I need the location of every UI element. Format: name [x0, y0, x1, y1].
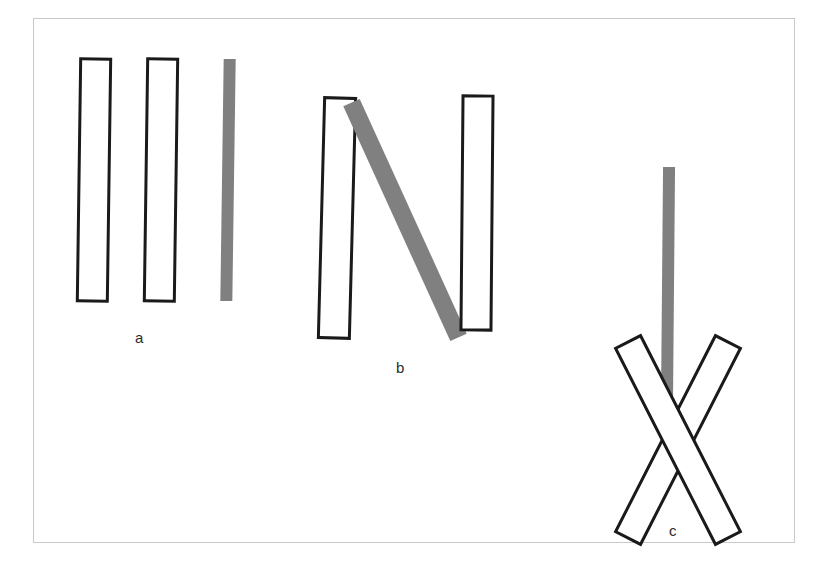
panel-a-group [77, 59, 235, 301]
bar-b-2 [343, 99, 466, 341]
bar-a-1 [77, 59, 110, 301]
figure-canvas [0, 0, 830, 583]
figure-root: a b c [0, 0, 830, 583]
panel-label-b: b [396, 360, 404, 375]
bar-a-3 [220, 59, 235, 301]
bar-b-1 [318, 98, 355, 339]
bar-c-1 [661, 167, 675, 407]
panel-label-a: a [135, 330, 143, 345]
panel-b-group [318, 96, 493, 341]
bar-a-2 [144, 59, 177, 301]
bar-b-3 [461, 96, 493, 330]
panel-label-c: c [669, 523, 677, 538]
panel-c-group [616, 167, 741, 544]
